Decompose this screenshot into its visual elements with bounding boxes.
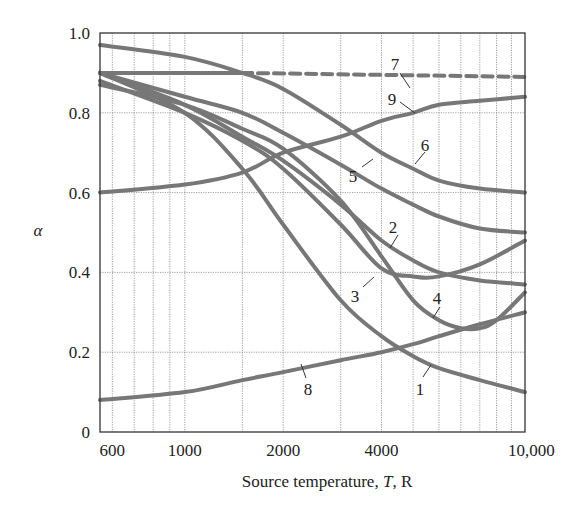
curves — [100, 45, 525, 400]
curve-label-6: 6 — [421, 136, 430, 155]
x-tick-label: 4000 — [364, 441, 398, 460]
y-axis-label: α — [34, 221, 44, 240]
curve-8 — [100, 312, 525, 400]
leader-line-1 — [423, 365, 431, 377]
curve-label-1: 1 — [416, 380, 425, 399]
y-axis-ticks: 00.20.40.60.81.0 — [69, 24, 91, 442]
curve-label-2: 2 — [389, 218, 398, 237]
curve-label-3: 3 — [351, 287, 360, 306]
leader-line-5 — [362, 159, 373, 167]
x-tick-label: 1000 — [168, 441, 202, 460]
leader-line-3 — [363, 277, 374, 287]
y-tick-label: 0.6 — [69, 184, 90, 203]
curve-9 — [100, 97, 525, 193]
curve-label-5: 5 — [349, 167, 358, 186]
chart: 796523481 00.20.40.60.81.0 6001000200040… — [0, 0, 582, 514]
curve-1 — [100, 73, 525, 392]
x-tick-label: 600 — [100, 441, 126, 460]
x-tick-label: 10,000 — [508, 441, 555, 460]
y-tick-label: 0.4 — [69, 263, 91, 282]
x-axis-label: Source temperature, T, R — [242, 472, 413, 491]
leader-line-9 — [400, 102, 415, 113]
curve-4 — [100, 85, 525, 329]
y-tick-label: 0.8 — [69, 104, 90, 123]
curve-7-dashed — [242, 73, 525, 77]
curve-label-4: 4 — [433, 289, 442, 308]
curve-3 — [100, 81, 525, 278]
curve-label-9: 9 — [388, 90, 397, 109]
y-tick-label: 1.0 — [69, 24, 90, 43]
x-axis-ticks: 60010002000400010,000 — [100, 441, 555, 460]
curve-label-7: 7 — [391, 55, 400, 74]
y-tick-label: 0 — [82, 423, 91, 442]
x-tick-label: 2000 — [266, 441, 300, 460]
curve-labels: 796523481 — [301, 55, 442, 399]
y-tick-label: 0.2 — [69, 343, 90, 362]
curve-label-8: 8 — [304, 380, 313, 399]
